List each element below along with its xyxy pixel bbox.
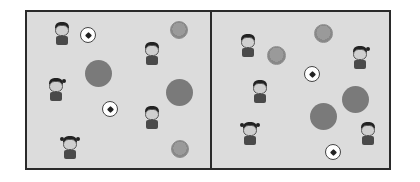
soccer-ball-icon xyxy=(80,27,96,43)
textured-ball-icon xyxy=(170,21,188,39)
child-icon xyxy=(350,46,370,70)
child-icon xyxy=(358,122,378,146)
child-icon xyxy=(142,42,162,66)
soccer-ball-icon xyxy=(325,144,341,160)
large-circle xyxy=(85,60,112,87)
child-icon xyxy=(250,80,270,104)
textured-ball-icon xyxy=(314,24,333,43)
child-icon xyxy=(238,34,258,58)
child-icon xyxy=(52,22,72,46)
large-circle xyxy=(342,86,369,113)
soccer-ball-icon xyxy=(304,66,320,82)
child-icon xyxy=(240,122,260,146)
panel-divider xyxy=(210,10,212,170)
textured-ball-icon xyxy=(171,140,189,158)
large-circle xyxy=(166,79,193,106)
soccer-ball-icon xyxy=(102,101,118,117)
textured-ball-icon xyxy=(267,46,286,65)
child-icon xyxy=(60,136,80,160)
large-circle xyxy=(310,103,337,130)
child-icon xyxy=(46,78,66,102)
child-icon xyxy=(142,106,162,130)
